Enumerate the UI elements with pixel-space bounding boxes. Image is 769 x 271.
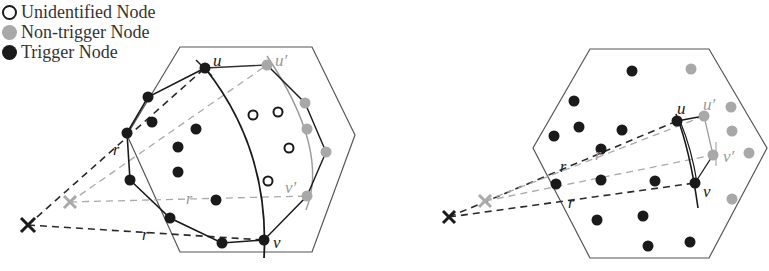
trigger-node — [569, 96, 580, 107]
label-u-prime: u′ — [275, 51, 288, 70]
label-u-prime: u′ — [703, 95, 716, 114]
trigger-node — [147, 117, 158, 128]
outer-path — [264, 65, 326, 240]
nontrigger-node — [727, 194, 738, 205]
nontrigger-node — [300, 98, 311, 109]
label-r: r — [568, 194, 575, 211]
trigger-node — [200, 63, 211, 74]
nontrigger-node — [321, 147, 332, 158]
trigger-node — [143, 92, 154, 103]
diagram-canvas: u u′ v v′ r r r — [0, 0, 769, 271]
trigger-node — [125, 175, 136, 186]
label-v: v — [273, 233, 281, 252]
nontrigger-node — [727, 126, 738, 137]
arc-dark-inner — [680, 121, 697, 183]
label-r: r — [186, 190, 193, 207]
trigger-node — [685, 237, 696, 248]
nontrigger-node — [262, 60, 273, 71]
nontrigger-node — [726, 102, 737, 113]
trigger-node — [122, 128, 133, 139]
label-v: v — [703, 182, 711, 201]
trigger-node — [596, 175, 607, 186]
nontrigger-node — [744, 148, 755, 159]
nontrigger-node — [686, 64, 697, 75]
label-r: r — [142, 226, 149, 243]
unidentified-node — [264, 177, 273, 186]
label-r: r — [113, 141, 120, 158]
trigger-node — [549, 131, 560, 142]
label-u: u — [213, 51, 222, 70]
label-u: u — [677, 99, 686, 118]
label-r: r — [560, 158, 567, 175]
label-r: r — [595, 146, 602, 163]
unidentified-node — [285, 144, 294, 153]
trigger-node — [643, 241, 654, 252]
unidentified-node — [249, 111, 258, 120]
trigger-node — [217, 238, 228, 249]
trigger-node — [165, 213, 176, 224]
trigger-node — [650, 176, 661, 187]
trigger-node — [574, 122, 585, 133]
trigger-node — [638, 211, 649, 222]
trigger-node — [690, 178, 701, 189]
left-diagram: u u′ v v′ r r r — [21, 47, 355, 258]
trigger-node — [259, 235, 270, 246]
trigger-node — [211, 195, 222, 206]
observer-light-cross-icon — [479, 195, 491, 207]
nontrigger-node — [302, 191, 313, 202]
arc-dark — [676, 114, 698, 208]
right-diagram: u u′ v v′ r r r — [443, 49, 767, 258]
edge-uprime-vprime — [704, 116, 713, 155]
unidentified-node — [274, 108, 283, 117]
label-v-prime: v′ — [723, 147, 735, 166]
trigger-node — [173, 167, 184, 178]
trigger-node — [551, 179, 562, 190]
nontrigger-node — [302, 124, 313, 135]
radius-line-light-u — [70, 65, 267, 202]
trigger-node — [191, 124, 202, 135]
arc-dark — [205, 68, 265, 258]
trigger-node — [592, 215, 603, 226]
hexagon-boundary — [127, 47, 355, 252]
trigger-node — [617, 125, 628, 136]
trigger-node — [627, 66, 638, 77]
trigger-node — [173, 142, 184, 153]
label-v-prime: v′ — [285, 178, 297, 197]
nontrigger-node — [708, 150, 719, 161]
